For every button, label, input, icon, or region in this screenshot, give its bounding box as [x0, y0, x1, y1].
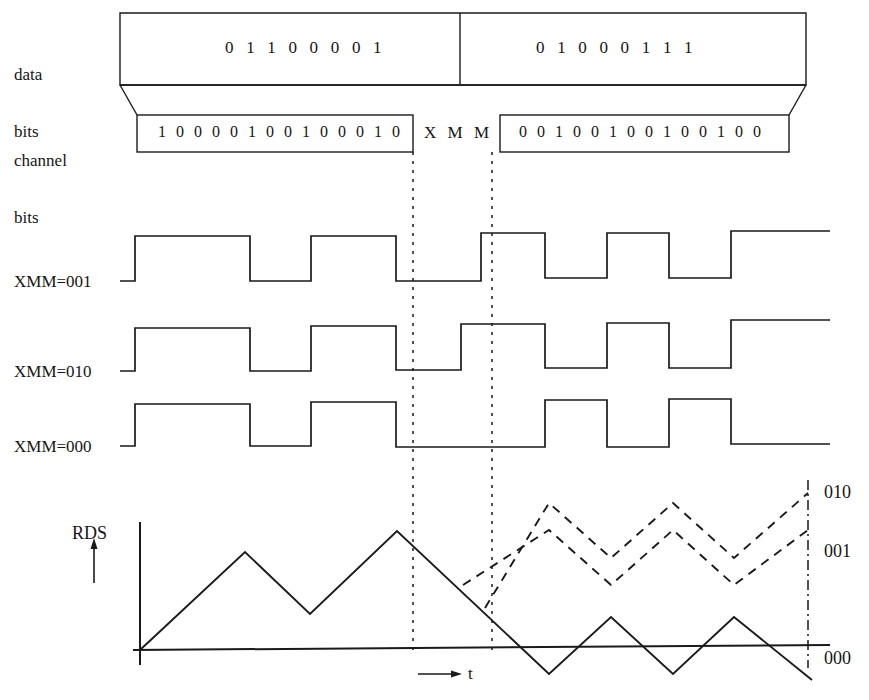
efm-diagram-svg	[0, 0, 869, 700]
channel-bits-value-2: 0 0 1 0 0 1 0 0 1 0 0 1 0 0	[519, 123, 764, 141]
waveform-label-xmm-010: XMM=010	[14, 362, 92, 381]
rds-right-label-000: 000	[824, 648, 851, 668]
data-bits-label-line1: data	[14, 65, 42, 84]
channel-bits-label: channel bits	[14, 113, 67, 265]
rds-axes	[91, 522, 831, 678]
merging-bits-label: X M M	[424, 123, 493, 142]
rds-right-label-001: 001	[824, 541, 851, 561]
figure-canvas: data bits channel bits 0 1 1 0 0 0 0 1 0…	[0, 0, 869, 700]
waveform-010-trace	[120, 320, 830, 371]
channel-bits-label-line2: bits	[14, 208, 67, 227]
data-bits-value-1: 0 1 1 0 0 0 0 1	[225, 38, 386, 57]
time-axis-label: t	[468, 664, 473, 683]
channel-bits-label-line1: channel	[14, 151, 67, 170]
rds-axis-label: RDS	[72, 523, 107, 543]
rds-right-label-010: 010	[824, 482, 851, 502]
data-bits-value-2: 0 1 0 0 0 1 1 1	[536, 38, 697, 57]
waveform-label-xmm-001: XMM=001	[14, 272, 92, 291]
funnel-connectors	[120, 85, 806, 115]
channel-bits-value-1: 1 0 0 0 0 1 0 0 1 0 0 0 1 0	[158, 123, 403, 141]
rds-x-axis	[133, 645, 830, 650]
funnel-left-edge	[120, 85, 137, 115]
merging-window-guides	[413, 152, 492, 653]
waveform-xmm-000	[120, 399, 830, 447]
time-arrow-head	[451, 671, 462, 678]
waveform-label-xmm-000: XMM=000	[14, 437, 92, 456]
funnel-right-edge	[789, 85, 806, 115]
data-bits-outer-box	[120, 13, 806, 85]
rds-trace-000	[140, 531, 812, 680]
rds-solid-series	[140, 531, 812, 680]
waveform-xmm-010	[120, 320, 830, 371]
waveform-000-trace	[120, 399, 830, 447]
rds-dashed-series-010	[485, 493, 808, 608]
data-bits-block	[120, 13, 806, 85]
rds-trace-010	[485, 493, 808, 608]
waveform-xmm-001	[120, 231, 830, 281]
waveform-001-trace	[120, 231, 830, 281]
